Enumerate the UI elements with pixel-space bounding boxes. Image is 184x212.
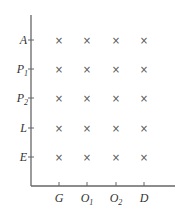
cell-mark: × [112, 35, 120, 46]
cell-mark: × [140, 152, 148, 163]
cell-mark: × [112, 123, 120, 134]
cell-mark: × [83, 35, 91, 46]
row-label: A [19, 33, 28, 47]
cell-mark: × [112, 93, 120, 104]
cell-mark: × [55, 93, 63, 104]
column-label: O1 [81, 191, 94, 207]
cell-mark: × [83, 123, 91, 134]
cell-mark: × [55, 35, 63, 46]
cell-marks: ×××××××××××××××××××× [55, 35, 148, 163]
row-label: E [19, 150, 28, 164]
cell-mark: × [55, 64, 63, 75]
cell-mark: × [140, 35, 148, 46]
cell-mark: × [83, 64, 91, 75]
cell-mark: × [83, 152, 91, 163]
cell-mark: × [140, 93, 148, 104]
column-label: G [55, 191, 64, 205]
cell-mark: × [140, 123, 148, 134]
cell-mark: × [112, 64, 120, 75]
cell-mark: × [83, 93, 91, 104]
cell-mark: × [55, 123, 63, 134]
cell-mark: × [55, 152, 63, 163]
cell-mark: × [112, 152, 120, 163]
column-label: D [139, 191, 149, 205]
cell-mark: × [140, 64, 148, 75]
column-label: O2 [110, 191, 123, 207]
grid-diagram: AP1P2LE GO1O2D ×××××××××××××××××××× [0, 0, 184, 212]
row-label: P1 [16, 62, 28, 78]
row-label: P2 [16, 91, 28, 107]
row-label: L [19, 121, 27, 135]
